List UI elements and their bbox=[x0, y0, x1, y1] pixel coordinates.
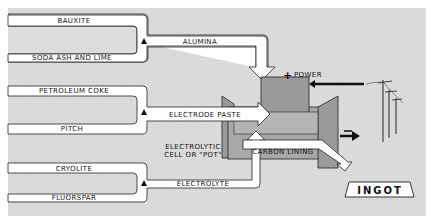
label-electrolyte: ELECTROLYTE bbox=[177, 180, 230, 188]
process-diagram: BAUXITE SODA ASH AND LIME ALUMINA PETROL… bbox=[0, 0, 435, 222]
label-pitch: PITCH bbox=[61, 125, 83, 133]
label-cell-or-pot: CELL OR "POT" bbox=[164, 151, 222, 159]
label-power: POWER bbox=[294, 71, 322, 79]
label-electrolytic: ELECTROLYTIC bbox=[165, 143, 221, 151]
label-fluorspar: FLUORSPAR bbox=[52, 194, 97, 202]
label-bauxite: BAUXITE bbox=[57, 17, 90, 25]
plus-sign-icon: + bbox=[283, 69, 292, 82]
label-ingot: INGOT bbox=[357, 185, 403, 196]
label-cryolite: CRYOLITE bbox=[56, 165, 93, 173]
label-carbon-lining: CARBON LINING bbox=[252, 148, 313, 156]
label-alumina: ALUMINA bbox=[183, 38, 217, 46]
label-soda-ash-and-lime: SODA ASH AND LIME bbox=[32, 54, 112, 62]
label-electrode-paste: ELECTRODE PASTE bbox=[169, 111, 241, 119]
label-petroleum-coke: PETROLEUM COKE bbox=[39, 87, 109, 95]
